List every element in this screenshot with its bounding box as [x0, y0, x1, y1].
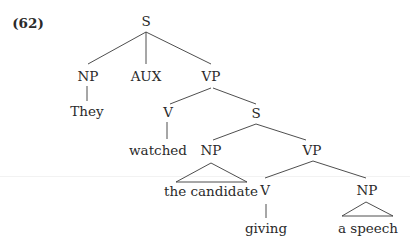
edge-s-vp	[146, 32, 211, 64]
edge-s2-np	[213, 124, 256, 140]
leaf-a-speech: a speech	[338, 222, 398, 236]
edge-vp-s	[213, 88, 256, 104]
node-vp-embedded: VP	[303, 144, 322, 158]
tree-edges	[0, 0, 410, 245]
leaf-they: They	[70, 105, 103, 119]
edge-s2-vp	[256, 124, 306, 140]
node-vp-main: VP	[202, 70, 221, 84]
leaf-the-candidate: the candidate	[164, 185, 258, 199]
triangle-np-the-candidate	[176, 163, 247, 182]
edge-vp-v	[170, 88, 211, 104]
node-v-embedded: V	[260, 184, 270, 198]
node-v-main: V	[163, 106, 173, 120]
example-number: (62)	[12, 17, 44, 31]
edge-vp2-v	[265, 161, 313, 178]
node-s-root: S	[141, 15, 150, 29]
node-np-embedded: NP	[357, 184, 378, 198]
leaf-giving: giving	[245, 222, 287, 236]
node-s-embedded: S	[251, 107, 260, 121]
node-np-subject: NP	[78, 70, 99, 84]
leaf-watched: watched	[129, 144, 187, 158]
triangle-np-a-speech	[342, 202, 393, 216]
edge-s-np	[88, 32, 146, 64]
node-np-object: NP	[201, 144, 222, 158]
node-aux: AUX	[131, 70, 162, 84]
edge-vp2-np	[313, 161, 366, 178]
